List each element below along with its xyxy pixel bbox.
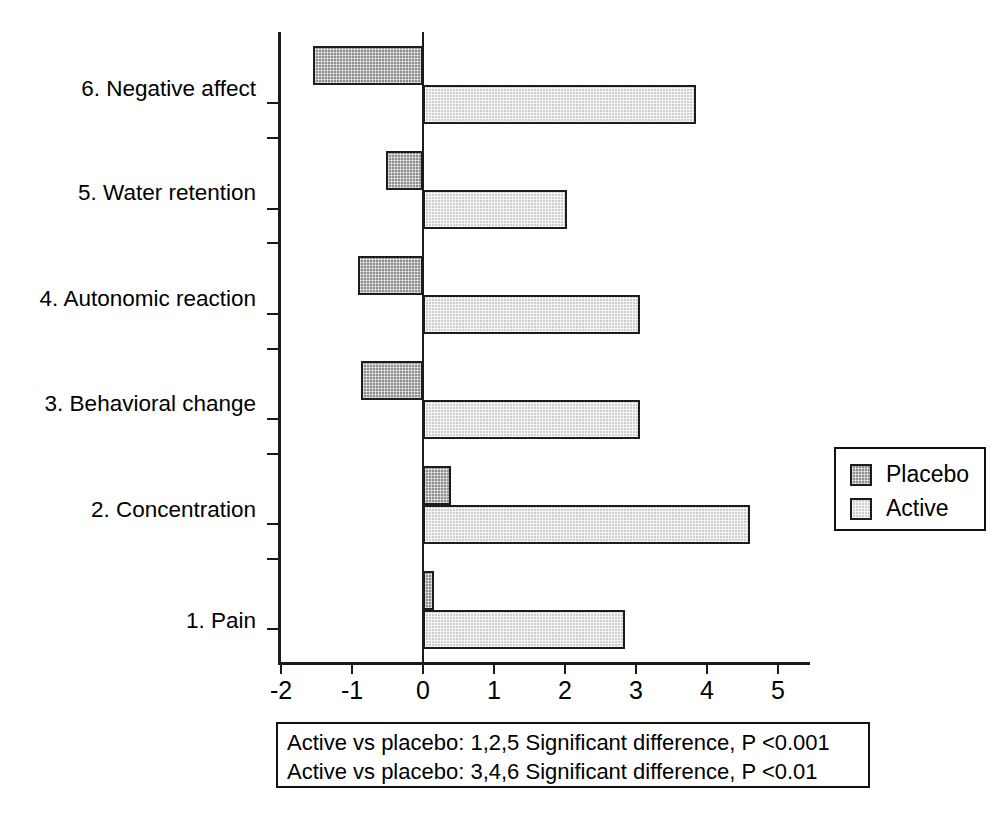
- category-label-3: 3. Behavioral change: [45, 391, 256, 417]
- legend-label-placebo: Placebo: [886, 461, 969, 488]
- bar-placebo-3: [361, 361, 423, 400]
- annotation-line-2: Active vs placebo: 3,4,6 Significant dif…: [287, 757, 868, 786]
- y-tick-minor: [267, 523, 280, 525]
- legend-item-placebo: Placebo: [850, 461, 969, 488]
- x-tick-label: 4: [687, 676, 727, 705]
- bar-placebo-5: [386, 151, 423, 190]
- y-tick: [267, 453, 280, 455]
- x-tick: [493, 663, 495, 674]
- chart-figure: -2-1012345 6. Negative affect 5. Water r…: [0, 0, 1002, 826]
- bar-active-2: [423, 505, 750, 544]
- y-tick-minor: [267, 313, 280, 315]
- legend-swatch-placebo-icon: [850, 464, 872, 486]
- category-label-4: 4. Autonomic reaction: [40, 286, 256, 312]
- x-tick-label: 3: [616, 676, 656, 705]
- x-axis-line: [278, 662, 810, 665]
- annotation-box: Active vs placebo: 1,2,5 Significant dif…: [276, 722, 870, 788]
- x-tick-label: -1: [332, 676, 372, 705]
- category-label-5: 5. Water retention: [78, 180, 256, 206]
- y-tick: [267, 558, 280, 560]
- plot-area: -2-1012345 6. Negative affect 5. Water r…: [0, 0, 1002, 826]
- x-tick: [635, 663, 637, 674]
- category-label-6: 6. Negative affect: [81, 76, 256, 102]
- y-tick-minor: [267, 208, 280, 210]
- y-tick: [267, 348, 280, 350]
- bar-active-5: [423, 190, 567, 229]
- legend: Placebo Active: [834, 447, 986, 531]
- y-tick-minor: [267, 102, 280, 104]
- x-tick-label: -2: [261, 676, 301, 705]
- category-label-1: 1. Pain: [186, 608, 256, 634]
- x-tick: [280, 663, 282, 674]
- x-tick: [706, 663, 708, 674]
- legend-swatch-active-icon: [850, 498, 872, 520]
- category-label-2: 2. Concentration: [91, 497, 256, 523]
- x-tick-label: 0: [403, 676, 443, 705]
- bar-active-1: [423, 610, 625, 649]
- x-tick: [564, 663, 566, 674]
- x-tick: [422, 663, 424, 674]
- x-tick-label: 1: [474, 676, 514, 705]
- y-tick-minor: [267, 418, 280, 420]
- y-tick: [267, 137, 280, 139]
- bar-active-4: [423, 295, 640, 334]
- x-tick-label: 5: [758, 676, 798, 705]
- x-tick: [351, 663, 353, 674]
- bar-active-3: [423, 400, 640, 439]
- zero-baseline: [422, 32, 424, 664]
- annotation-line-1: Active vs placebo: 1,2,5 Significant dif…: [287, 728, 868, 757]
- y-tick: [267, 242, 280, 244]
- y-tick-minor: [267, 628, 280, 630]
- legend-label-active: Active: [886, 495, 949, 522]
- x-tick-label: 2: [545, 676, 585, 705]
- bar-placebo-1: [423, 571, 434, 610]
- x-tick: [777, 663, 779, 674]
- bar-placebo-2: [423, 466, 451, 505]
- legend-item-active: Active: [850, 495, 949, 522]
- bar-placebo-6: [313, 46, 423, 85]
- bar-placebo-4: [358, 256, 423, 295]
- bar-active-6: [423, 85, 696, 124]
